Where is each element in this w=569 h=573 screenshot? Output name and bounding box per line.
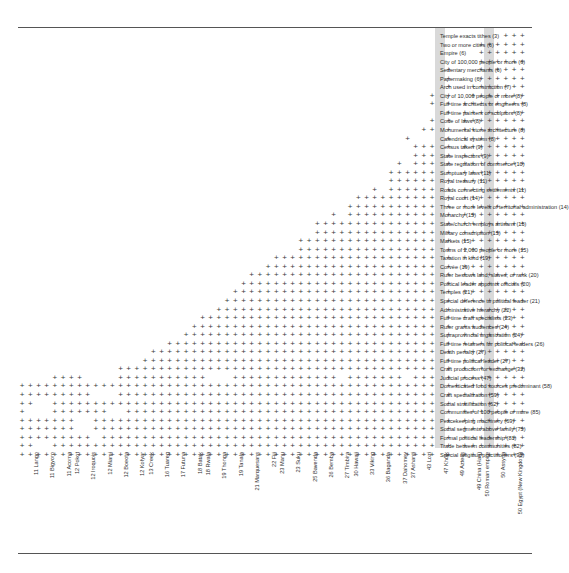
society-label: 30 Hawaii [352, 452, 360, 477]
trait-present-mark: + [92, 425, 100, 434]
trait-label: Two or more cities (6) [438, 41, 569, 50]
trait-present-mark: + [84, 408, 92, 417]
society-label: 22 Fiji [270, 452, 278, 467]
society-label: 12 Kofyar [138, 452, 146, 476]
trait-label: Roads connecting settlements (11) [438, 186, 569, 195]
plot-area: ++++++++++++++++++++++++++++++++++++++++… [18, 28, 532, 553]
bottom-rule [18, 553, 532, 554]
society-label: 50 Egypt (New Kingdom) [516, 452, 524, 514]
society-label: 17 Futuna [179, 452, 187, 477]
society-label: 27 Timbira [343, 452, 351, 478]
trait-present-mark: + [75, 408, 83, 417]
trait-present-mark: + [100, 382, 108, 391]
society-label: 23 Manu [278, 452, 286, 474]
trait-label: Census taken (9) [438, 143, 569, 152]
society-label: 50 Roman empire [483, 452, 491, 496]
trait-label: Communities of 100 people or more (85) [438, 408, 569, 417]
trait-label: Administrative hierarchy (22) [438, 306, 569, 315]
society-label: 21 Marquesans [253, 452, 261, 491]
trait-label: Trade between communities (82) [438, 442, 569, 451]
society-label: 19 Thonga [220, 452, 228, 479]
society-label: 26 Bemba [327, 452, 335, 478]
trait-label: Ruler grants audiences (24) [438, 323, 569, 332]
trait-present-mark: + [108, 382, 116, 391]
trait-label: State regulation of commerce (10) [438, 160, 569, 169]
trait-present-mark: + [223, 365, 231, 374]
trait-present-mark: + [34, 391, 42, 400]
society-label: 49 China (Han) [475, 452, 483, 490]
trait-label: Peacekeeping machinery (69) [438, 417, 569, 426]
trait-label: Supraprovincial organization (24) [438, 331, 569, 340]
trait-label-column: Temple exacts tithes (3)Two or more citi… [438, 32, 569, 459]
society-label: 33 Viking [368, 452, 376, 475]
trait-label: Monumental stone architecture (8) [438, 126, 569, 135]
trait-label: City of 10,000 people or more (8) [438, 92, 569, 101]
trait-label: Judicial process (47) [438, 374, 569, 383]
trait-present-mark: + [26, 400, 34, 409]
trait-label: Taxation in kind (19) [438, 254, 569, 263]
trait-label: Markets (15) [438, 237, 569, 246]
trait-label: Craft production for exchange (32) [438, 365, 569, 374]
society-label: 23 Suku [294, 452, 302, 473]
trait-present-mark: + [108, 400, 116, 409]
trait-label: Formal political leadership (81) [438, 434, 569, 443]
society-label: 43 Lozi [425, 452, 433, 470]
trait-label: Temple exacts tithes (3) [438, 32, 569, 41]
society-label: 49 Aztecs [458, 452, 466, 476]
trait-present-mark: + [43, 391, 51, 400]
trait-present-mark: + [34, 434, 42, 443]
trait-label: Code of laws (8) [438, 117, 569, 126]
trait-label: State/church employs artisans (15) [438, 220, 569, 229]
trait-present-mark: + [207, 365, 215, 374]
trait-present-mark: + [43, 434, 51, 443]
trait-label: Full-time painters or sculptors (8) [438, 109, 569, 118]
society-label: 11 Acoma [65, 452, 73, 476]
trait-present-mark: + [18, 451, 26, 460]
trait-label: Three or more levels of territorial admi… [438, 203, 569, 212]
trait-label: Social stratification (62) [438, 400, 569, 409]
trait-label: Royal treasury (11) [438, 177, 569, 186]
trait-label: Royal court (14) [438, 194, 569, 203]
trait-label: Military conscription (15) [438, 229, 569, 238]
trait-present-mark: + [403, 365, 411, 374]
trait-label: Special deference to political leader (2… [438, 297, 569, 306]
trait-label: Sedentary merchants (6) [438, 66, 569, 75]
trait-label: Domesticated food sources predominant (5… [438, 382, 569, 391]
trait-label: City of 100,000 people or more (6) [438, 58, 569, 67]
trait-present-mark: + [338, 365, 346, 374]
society-label: 13 Creek [147, 452, 155, 475]
trait-present-mark: + [92, 382, 100, 391]
society-label: 47 Khoik [442, 452, 450, 474]
trait-label: Craft specialization (59) [438, 391, 569, 400]
society-label: 12 Iroquois [89, 452, 97, 480]
society-label: 11 Bigyoro [48, 452, 56, 478]
trait-label: Full-time retainers for political leader… [438, 340, 569, 349]
trait-label: Political leader appoints officials (20) [438, 280, 569, 289]
trait-label: Calendrical system (8) [438, 135, 569, 144]
trait-label: Full-time political leader (27) [438, 357, 569, 366]
society-label: 12 Pokot [73, 452, 81, 474]
society-label: 11 Lango [32, 452, 40, 475]
trait-label: Death penalty (27) [438, 348, 569, 357]
trait-label: Social segments above family (75) [438, 425, 569, 434]
trait-label: Full-time craft specialists (23) [438, 314, 569, 323]
trait-label: Arch used in construction (7) [438, 83, 569, 92]
society-label: 25 Bavenda [311, 452, 319, 482]
trait-label: Temples (21) [438, 288, 569, 297]
society-label: 18 Batak [196, 452, 204, 474]
trait-present-mark: + [403, 135, 411, 144]
society-label: 12 Boeota [122, 452, 130, 478]
trait-present-mark: + [420, 126, 428, 135]
society-label: 18 Rwala [204, 452, 212, 475]
trait-label: Papermaking (6) [438, 75, 569, 84]
society-label: 36 Baganda [384, 452, 392, 482]
trait-label: State inspectors (9) [438, 152, 569, 161]
society-label: 50 Assyria [499, 452, 507, 478]
trait-present-mark: + [116, 400, 124, 409]
trait-present-mark: + [428, 100, 436, 109]
trait-label: Monarchy (15) [438, 211, 569, 220]
trait-present-mark: + [428, 126, 436, 135]
society-label: 12 Miami [106, 452, 114, 475]
trait-label: Ruler bestows land, slaves, or rank (20) [438, 271, 569, 280]
